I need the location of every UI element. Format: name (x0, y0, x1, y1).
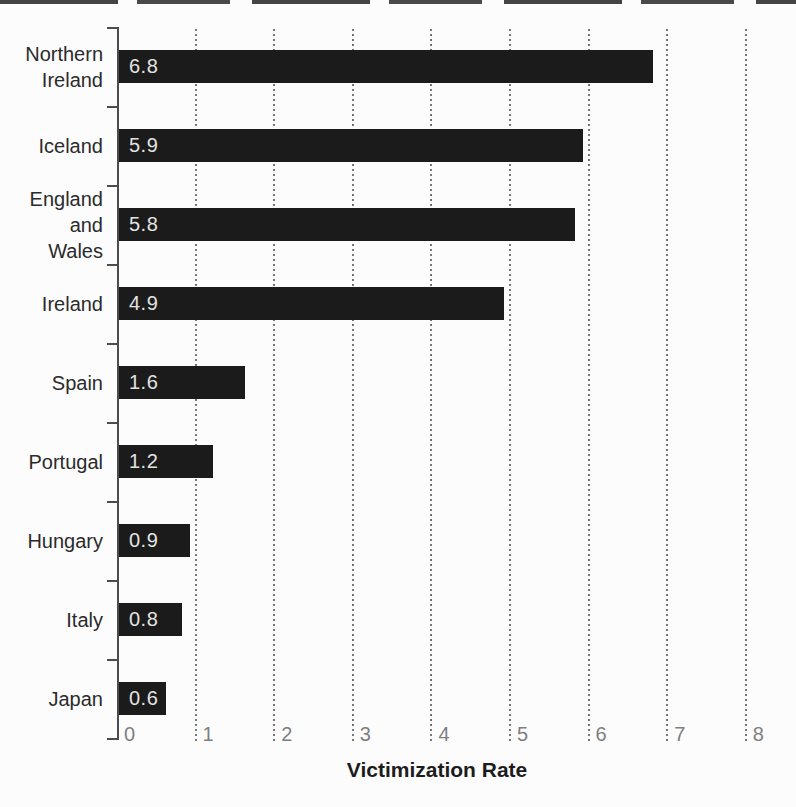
category-label-line: England (0, 186, 103, 212)
y-axis-tick (107, 106, 118, 108)
x-tick-label-7: 7 (674, 723, 685, 746)
bar-hungary: 0.9 (119, 524, 190, 557)
bar-northern-ireland: 6.8 (119, 50, 653, 83)
y-axis-line (117, 27, 119, 740)
category-label-northern-ireland: NorthernIreland (0, 41, 103, 93)
category-label-line: Northern (0, 41, 103, 67)
category-label-england-and-wales: EnglandandWales (0, 186, 103, 264)
bar-value-label: 0.9 (119, 529, 158, 552)
bar-value-label: 1.2 (119, 450, 158, 473)
y-axis-tick (107, 185, 118, 187)
x-tick-label-0: 0 (124, 723, 135, 746)
bar-value-label: 4.9 (119, 292, 158, 315)
bar-england-and-wales: 5.8 (119, 208, 575, 241)
y-axis-tick (107, 501, 118, 503)
x-tick-label-2: 2 (281, 723, 292, 746)
bar-ireland: 4.9 (119, 287, 504, 320)
bar-portugal: 1.2 (119, 445, 213, 478)
category-label-line: Spain (0, 370, 103, 396)
category-label-spain: Spain (0, 370, 103, 396)
y-axis-tick (107, 264, 118, 266)
bar-japan: 0.6 (119, 682, 166, 715)
bar-value-label: 5.8 (119, 213, 158, 236)
bar-value-label: 0.8 (119, 608, 158, 631)
category-label-line: Portugal (0, 449, 103, 475)
bar-value-label: 5.9 (119, 134, 158, 157)
category-label-portugal: Portugal (0, 449, 103, 475)
y-axis-tick (107, 580, 118, 582)
category-label-line: Iceland (0, 133, 103, 159)
x-tick-label-4: 4 (438, 723, 449, 746)
x-tick-label-8: 8 (753, 723, 764, 746)
x-axis-title: Victimization Rate (117, 758, 757, 782)
x-tick-label-5: 5 (517, 723, 528, 746)
category-label-line: Wales (0, 238, 103, 264)
category-label-iceland: Iceland (0, 133, 103, 159)
gridline-x-8 (745, 29, 747, 744)
category-label-japan: Japan (0, 686, 103, 712)
bar-value-label: 1.6 (119, 371, 158, 394)
category-label-ireland: Ireland (0, 291, 103, 317)
gridline-x-7 (666, 29, 668, 744)
victimization-rate-bar-chart: Victimization Rate 6.8NorthernIreland5.9… (0, 0, 796, 807)
category-label-line: Italy (0, 607, 103, 633)
y-axis-tick (107, 659, 118, 661)
y-axis-tick (107, 738, 118, 740)
y-axis-tick (107, 27, 118, 29)
y-axis-tick (107, 422, 118, 424)
x-tick-label-1: 1 (203, 723, 214, 746)
bar-iceland: 5.9 (119, 129, 583, 162)
bar-italy: 0.8 (119, 603, 182, 636)
category-label-hungary: Hungary (0, 528, 103, 554)
x-tick-label-6: 6 (596, 723, 607, 746)
category-label-line: Hungary (0, 528, 103, 554)
bar-value-label: 6.8 (119, 55, 158, 78)
gridline-x-6 (588, 29, 590, 744)
category-label-line: Ireland (0, 67, 103, 93)
category-label-line: Japan (0, 686, 103, 712)
category-label-italy: Italy (0, 607, 103, 633)
bar-value-label: 0.6 (119, 687, 158, 710)
category-label-line: Ireland (0, 291, 103, 317)
bar-chart-page: Victimization Rate 6.8NorthernIreland5.9… (0, 0, 796, 807)
bar-spain: 1.6 (119, 366, 245, 399)
category-label-line: and (0, 212, 103, 238)
y-axis-tick (107, 343, 118, 345)
x-tick-label-3: 3 (360, 723, 371, 746)
